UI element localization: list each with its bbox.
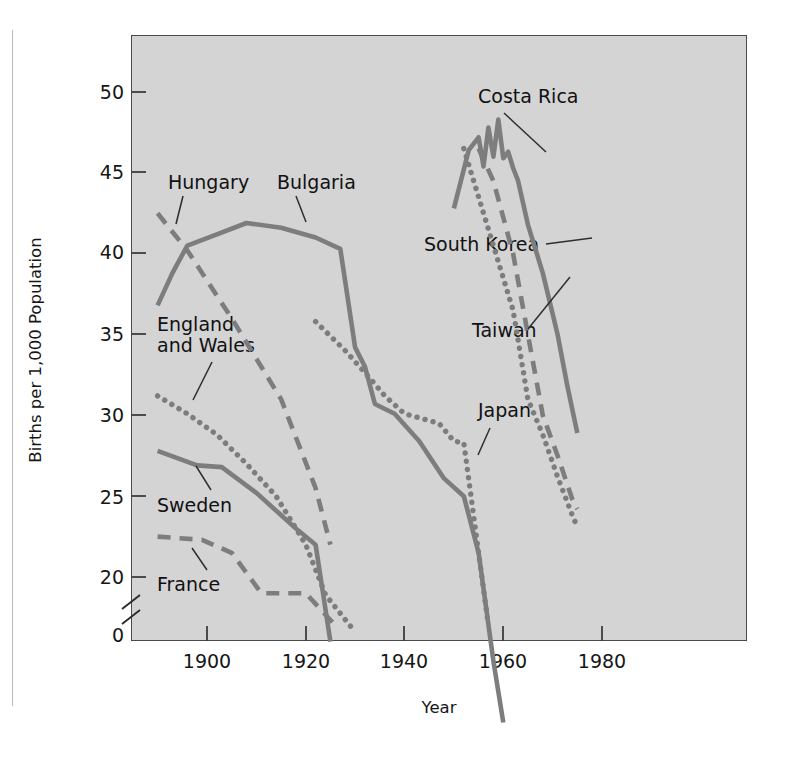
x-axis-ticks	[207, 626, 602, 641]
leader-line-taiwan	[528, 277, 570, 329]
leader-line-england-and-wales	[193, 362, 212, 400]
leader-line-costa-rica	[504, 113, 546, 152]
leader-line-france	[192, 548, 207, 570]
series-line-bulgaria	[158, 223, 504, 723]
births-rate-line-chart-figure: Births per 1,000 Population 0 20 25 30 3…	[0, 0, 790, 760]
series-line-hungary	[158, 213, 331, 544]
y-axis-ticks	[131, 92, 146, 577]
y-axis-break-icon	[122, 595, 140, 624]
leader-line-hungary	[176, 196, 183, 224]
series-line-france	[158, 537, 336, 626]
chart-drawing-layer	[0, 0, 790, 760]
data-series-layer	[158, 120, 578, 723]
leader-line-bulgaria	[296, 196, 306, 222]
series-line-japan	[316, 322, 489, 626]
leader-line-japan	[478, 428, 490, 455]
leader-line-sweden	[196, 466, 211, 490]
leader-line-south-korea	[546, 238, 592, 244]
